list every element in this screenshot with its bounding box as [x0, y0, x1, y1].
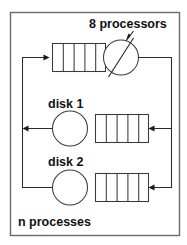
- disk1-server-circle: [53, 111, 88, 146]
- disk2-queue-box: [96, 174, 149, 202]
- disk2-label: disk 2: [48, 155, 83, 169]
- queueing-network-figure: 8 processors disk 1 disk 2 n processes: [0, 0, 187, 245]
- disk2-server: [53, 170, 88, 205]
- disk1-label: disk 1: [48, 97, 83, 111]
- disk2-server-circle: [53, 170, 88, 205]
- disk2-queue: [96, 174, 149, 202]
- disk1-queue: [96, 115, 149, 143]
- processors-label: 8 processors: [89, 17, 167, 31]
- disk1-queue-box: [96, 115, 149, 143]
- cpu-queue: [53, 44, 106, 72]
- population-label: n processes: [18, 215, 91, 229]
- cpu-queue-box: [53, 44, 106, 72]
- disk1-server: [53, 111, 88, 146]
- diagram-canvas: 8 processors disk 1 disk 2 n processes: [0, 0, 187, 245]
